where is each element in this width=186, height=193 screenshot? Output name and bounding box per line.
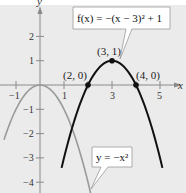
- y-tick-label: 2: [29, 31, 34, 42]
- x-axis-label: x: [177, 79, 183, 91]
- g-callout-text: y = −x²: [96, 151, 129, 163]
- point-label-2-0: (2, 0): [63, 69, 87, 82]
- y-tick-label: −2: [23, 128, 34, 139]
- point-label-4-0: (4, 0): [136, 69, 160, 82]
- x-tick-label: −1: [9, 90, 20, 101]
- y-tick-label: −3: [23, 152, 34, 163]
- y-tick-label: −4: [23, 177, 34, 188]
- point-4-0: [133, 82, 139, 88]
- point-2-0: [85, 82, 91, 88]
- x-tick-label: 5: [157, 90, 162, 101]
- x-tick-label: 1: [62, 90, 67, 101]
- parabola-graph: x y −1 1 3 5 2 1 −1 −2 −3 −4 (2, 0) (3, …: [0, 0, 186, 193]
- y-axis-label: y: [36, 0, 42, 7]
- y-tick-label: −1: [23, 104, 34, 115]
- f-callout-text: f(x) = −(x − 3)² + 1: [77, 12, 162, 25]
- x-tick-label: 3: [110, 90, 115, 101]
- y-tick-label: 1: [29, 55, 34, 66]
- point-label-3-1: (3, 1): [97, 45, 121, 58]
- point-3-1: [109, 58, 115, 64]
